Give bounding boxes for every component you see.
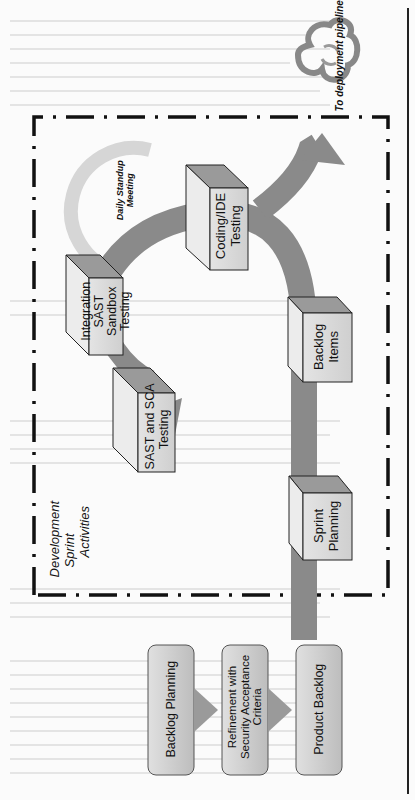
sprint-planning-line-1: Sprint	[312, 491, 327, 561]
sprint-container-label: Development Sprint Activities	[48, 487, 93, 577]
cloud-sync-icon	[298, 20, 357, 80]
refinement-line-2: Security Acceptance	[239, 647, 252, 767]
coding-ide-line-2: Testing	[229, 185, 244, 267]
integration-sast-label: Integration SAST Sandbox Testing	[80, 272, 133, 350]
coding-ide-label: Coding/IDE Testing	[214, 185, 244, 267]
backlog-items-line-2: Items	[327, 312, 342, 382]
refinement-label: Refinement with Security Acceptance Crit…	[226, 647, 264, 767]
backlog-items-label: Backlog Items	[312, 312, 342, 382]
refinement-line-3: Criteria	[251, 647, 264, 767]
sprint-planning-line-2: Planning	[327, 491, 342, 561]
container-line-3: Activities	[77, 487, 92, 577]
product-backlog-label: Product Backlog	[312, 649, 326, 769]
daily-standup-line-2: Meeting	[125, 150, 135, 230]
container-line-2: Sprint	[63, 487, 78, 577]
coding-ide-line-1: Coding/IDE	[214, 185, 229, 267]
sast-sca-line-2: Testing	[157, 389, 171, 469]
container-line-1: Development	[48, 487, 63, 577]
sast-sca-line-1: SAST and SCA	[143, 389, 157, 469]
document-page: To deployment pipeline Daily Standup Mee…	[0, 0, 415, 800]
sprint-planning-label: Sprint Planning	[312, 491, 342, 561]
integration-line-4: Testing	[119, 272, 132, 350]
daily-standup-label: Daily Standup Meeting	[115, 150, 136, 230]
daily-standup-line-1: Daily Standup	[115, 150, 125, 230]
refinement-line-1: Refinement with	[226, 647, 239, 767]
backlog-items-line-1: Backlog	[312, 312, 327, 382]
sast-sca-label: SAST and SCA Testing	[143, 389, 172, 469]
diagram-graphics	[0, 0, 415, 800]
backlog-planning-label: Backlog Planning	[164, 649, 178, 769]
deployment-label: To deployment pipeline	[334, 0, 346, 116]
